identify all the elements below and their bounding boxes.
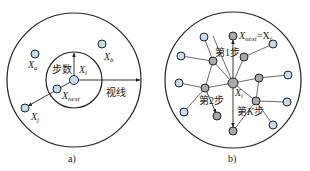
node-xb — [98, 40, 106, 48]
label-xj: Xj — [30, 111, 39, 124]
label-xi: Xi — [78, 64, 87, 77]
node-xi — [70, 76, 79, 85]
label-xnext: Xnext — [61, 90, 81, 103]
caption-a: a) — [68, 153, 76, 165]
label-stepk: 第K步 — [237, 105, 264, 117]
label-xnext-eq-xj: Xnext=Xj — [238, 30, 272, 43]
node-xa — [31, 50, 39, 58]
label-step: 步数 — [52, 63, 72, 75]
node-xnext — [229, 32, 237, 40]
diagram-canvas: Xa Xb 步数 Xi 视线 Xnext Xj a) — [0, 0, 310, 171]
label-xa: Xa — [27, 59, 38, 72]
label-xi: Xi — [234, 87, 243, 100]
node-xj — [21, 104, 29, 112]
label-step1: 第1步 — [215, 46, 240, 58]
node-xnext — [53, 85, 61, 93]
label-vision: 视线 — [106, 86, 126, 98]
caption-b: b) — [228, 153, 236, 165]
label-step2: 第2步 — [199, 94, 224, 106]
label-xb: Xb — [103, 51, 114, 64]
panel-b: Xnext=Xj 第1步 Xi 第2步 第K步 b) — [165, 12, 301, 165]
panel-a: Xa Xb 步数 Xi 视线 Xnext Xj a) — [7, 13, 141, 165]
